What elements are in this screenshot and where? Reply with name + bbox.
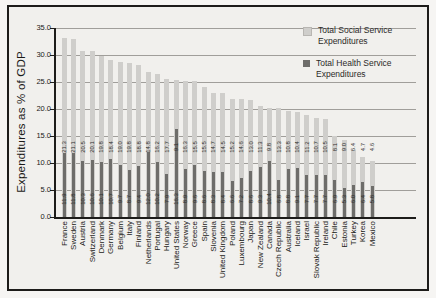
health-value-label: 6.4 <box>360 186 366 212</box>
y-tick-label: 0.0 <box>21 213 51 221</box>
legend-social-line2: Expenditures <box>318 36 392 47</box>
country-label: Australia <box>284 221 293 285</box>
health-value-label: 6.6 <box>229 186 235 212</box>
figure-frame: 0.05.010.015.020.025.030.035.021.311.9Fr… <box>7 5 429 291</box>
country-label: Spain <box>200 221 209 285</box>
country-label: Czech Republic <box>274 221 283 285</box>
health-value-label: 9.3 <box>257 186 263 212</box>
social-value-label: 13.3 <box>276 134 282 160</box>
social-value-label: 20.5 <box>80 134 86 160</box>
health-series-swatch-icon <box>303 60 310 67</box>
social-value-label: 9.8 <box>266 134 272 160</box>
social-value-label: 10.8 <box>285 134 291 160</box>
social-value-label: 19.8 <box>126 134 132 160</box>
health-value-label: 11.8 <box>70 186 76 212</box>
social-value-label: 21.3 <box>61 134 67 160</box>
social-value-label: 8.1 <box>332 134 338 160</box>
country-label: France <box>60 221 69 285</box>
health-value-label: 6.0 <box>350 186 356 212</box>
country-label: Chile <box>330 221 339 285</box>
country-label: United States <box>172 221 181 285</box>
health-value-label: 10.3 <box>80 186 86 212</box>
social-value-label: 16.2 <box>154 134 160 160</box>
country-label: Norway <box>181 221 190 285</box>
country-label: Korea <box>358 221 367 285</box>
country-label: Estonia <box>340 221 349 285</box>
country-label: Luxembourg <box>237 221 246 285</box>
health-value-label: 7.2 <box>238 186 244 212</box>
health-value-label: 8.7 <box>126 186 132 212</box>
social-value-label: 14.5 <box>220 134 226 160</box>
social-value-label: 9.1 <box>173 134 179 160</box>
social-value-label: 15.2 <box>229 134 235 160</box>
health-value-label: 10.1 <box>98 186 104 212</box>
health-value-label: 9.7 <box>117 186 123 212</box>
social-value-label: 11.3 <box>257 134 263 160</box>
health-value-label: 11.9 <box>61 186 67 212</box>
social-value-label: 6.4 <box>350 134 356 160</box>
country-label: Slovenia <box>209 221 218 285</box>
country-label: Netherlands <box>144 221 153 285</box>
country-label: Slovak Republic <box>312 221 321 285</box>
social-value-label: 19.0 <box>117 134 123 160</box>
country-label: Portugal <box>153 221 162 285</box>
country-label: Sweden <box>69 221 78 285</box>
social-value-label: 21.1 <box>70 134 76 160</box>
health-value-label: 5.3 <box>341 186 347 212</box>
health-value-label: 16.3 <box>173 186 179 212</box>
social-value-label: 16.3 <box>182 134 188 160</box>
country-label: Ireland <box>321 221 330 285</box>
country-label: Japan <box>246 221 255 285</box>
gridline <box>56 55 416 56</box>
health-value-label: 7.7 <box>313 186 319 212</box>
health-value-label: 7.7 <box>322 186 328 212</box>
y-axis-title: Expenditures as % of GDP <box>14 42 28 202</box>
social-value-label: 17.7 <box>164 134 170 160</box>
social-value-label: 10.4 <box>294 134 300 160</box>
country-label: Israel <box>302 221 311 285</box>
social-value-label: 15.5 <box>192 134 198 160</box>
country-label: United Kingdom <box>218 221 227 285</box>
social-value-label: 4.6 <box>369 134 375 160</box>
legend-health-line2: Expenditures <box>316 69 392 80</box>
social-value-label: 19.8 <box>98 134 104 160</box>
social-value-label: 4.7 <box>360 134 366 160</box>
social-value-label: 14.7 <box>210 134 216 160</box>
country-label: Mexico <box>368 221 377 285</box>
country-label: Iceland <box>293 221 302 285</box>
country-label: New Zealand <box>256 221 265 285</box>
legend-social-label: Total Social Service Expenditures <box>318 25 392 47</box>
social-value-label: 11.2 <box>304 134 310 160</box>
health-value-label: 8.8 <box>285 186 291 212</box>
health-value-label: 10.4 <box>266 186 272 212</box>
country-label: Denmark <box>97 221 106 285</box>
x-axis-line <box>54 217 416 219</box>
health-value-label: 7.9 <box>164 186 170 212</box>
social-value-label: 14.6 <box>238 134 244 160</box>
country-label: Belgium <box>116 221 125 285</box>
health-value-label: 8.4 <box>220 186 226 212</box>
health-value-label: 6.8 <box>276 186 282 212</box>
y-axis-line <box>54 28 56 219</box>
legend-social-line1: Total Social Service <box>318 25 392 36</box>
health-value-label: 8.6 <box>201 186 207 212</box>
social-value-label: 10.7 <box>313 134 319 160</box>
health-value-label: 12.0 <box>145 186 151 212</box>
health-value-label: 8.9 <box>182 186 188 212</box>
country-label: Austria <box>78 221 87 285</box>
health-value-label: 10.6 <box>89 186 95 212</box>
health-value-label: 8.3 <box>210 186 216 212</box>
country-label: Hungary <box>162 221 171 285</box>
country-label: Switzerland <box>88 221 97 285</box>
country-label: Turkey <box>349 221 358 285</box>
social-value-label: 9.0 <box>341 134 347 160</box>
health-value-label: 7.7 <box>304 186 310 212</box>
social-value-label: 14.8 <box>145 134 151 160</box>
country-label: Finland <box>134 221 143 285</box>
country-label: Germany <box>106 221 115 285</box>
health-value-label: 9.4 <box>136 186 142 212</box>
health-value-label: 10.7 <box>108 186 114 212</box>
health-value-label: 9.1 <box>294 186 300 212</box>
country-label: Italy <box>125 221 134 285</box>
legend-health-line1: Total Health Service <box>316 58 392 69</box>
